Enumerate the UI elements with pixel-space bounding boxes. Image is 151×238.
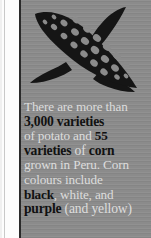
fact-line-4-part-3: corn xyxy=(89,143,115,158)
fact-line-6: colours include xyxy=(22,173,150,188)
fact-line-8-part-1: purple xyxy=(24,201,61,216)
fact-line-8-part-2: (and yellow) xyxy=(61,201,132,216)
fact-line-6-part-1: colours include xyxy=(24,172,103,187)
fact-line-5: grown in Peru. Corn xyxy=(22,158,150,173)
gutter-edge xyxy=(0,0,2,238)
fact-text: There are more than 3,000 varieties of p… xyxy=(22,100,150,217)
fact-line-1: There are more than xyxy=(22,100,150,115)
fact-line-7: black, white, and xyxy=(22,188,150,203)
fact-panel: There are more than 3,000 varieties of p… xyxy=(19,0,151,238)
fact-line-7-part-2: , white, and xyxy=(54,187,114,202)
fact-line-4: varieties of corn xyxy=(22,144,150,159)
fact-line-3-part-2: 55 xyxy=(95,128,108,143)
corn-cob-icon xyxy=(21,4,151,102)
fact-line-7-part-1: black xyxy=(24,187,54,202)
fact-line-1-part-1: There are more than xyxy=(24,99,128,114)
fact-line-4-part-1: varieties xyxy=(24,143,71,158)
fact-line-3-part-1: of potato and xyxy=(24,128,95,143)
fact-line-5-part-1: grown in Peru. Corn xyxy=(24,157,129,172)
fact-line-3: of potato and 55 xyxy=(22,129,150,144)
page-root: There are more than 3,000 varieties of p… xyxy=(0,0,151,238)
gutter-rule xyxy=(4,0,5,238)
page-gutter xyxy=(0,0,19,238)
fact-line-8: purple (and yellow) xyxy=(22,202,150,217)
fact-line-4-part-2: of xyxy=(71,143,89,158)
fact-line-2: 3,000 varieties xyxy=(22,115,150,130)
fact-line-2-part-1: 3,000 varieties xyxy=(24,114,104,129)
